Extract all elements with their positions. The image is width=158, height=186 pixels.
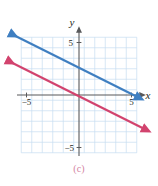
- figure-caption: (c): [0, 163, 158, 174]
- x-tick-label-neg5: −5: [22, 97, 32, 107]
- y-tick-label-neg5: −5: [64, 143, 74, 153]
- coordinate-plane-chart: y x −5 5 5 −5: [0, 0, 158, 186]
- y-tick-label-5: 5: [69, 38, 74, 48]
- y-axis-label: y: [69, 16, 75, 28]
- x-axis-label: x: [145, 89, 151, 101]
- x-tick-label-5: 5: [129, 97, 134, 107]
- graph-figure: y x −5 5 5 −5: [0, 0, 158, 186]
- blue-line-series: [15, 36, 141, 99]
